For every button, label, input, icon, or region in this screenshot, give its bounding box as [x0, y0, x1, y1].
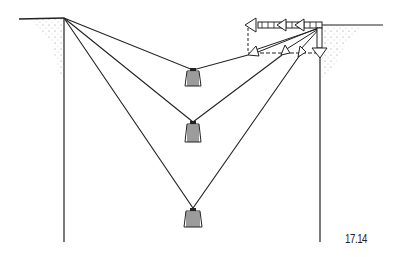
weight-middle [185, 121, 201, 142]
left-cliff [19, 18, 64, 242]
force-vectors [245, 18, 327, 58]
right-wall [320, 25, 383, 242]
force-diagram [0, 0, 401, 257]
weight-bottom [184, 208, 202, 227]
weight-top [185, 68, 201, 86]
figure-label: 17.14 [345, 232, 367, 246]
